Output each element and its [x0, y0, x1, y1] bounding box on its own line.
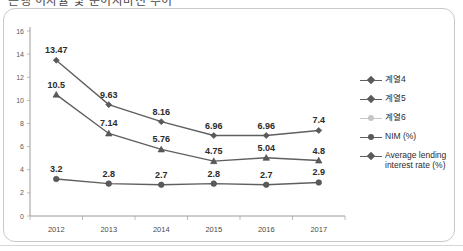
data-point-label: 2.8 [207, 169, 220, 179]
data-point-label: 6.96 [205, 121, 223, 131]
x-tick-label: 2017 [310, 225, 327, 234]
x-tick-label: 2016 [258, 225, 275, 234]
data-point-marker [211, 133, 217, 139]
data-point-marker [53, 176, 59, 182]
legend-diamond-marker-icon [360, 94, 382, 105]
legend-marker [367, 152, 375, 160]
legend-item-label: 계열6 [385, 112, 406, 122]
data-point-label: 5.76 [152, 134, 170, 144]
data-point-label: 6.96 [257, 121, 275, 131]
series-line [56, 179, 319, 185]
x-tick-label: 2012 [48, 225, 65, 234]
x-tick-label: 2013 [100, 225, 117, 234]
legend-diamond-marker-icon [360, 75, 382, 86]
x-axis-ticks: 201220132014201520162017 [30, 216, 345, 234]
y-tick-label: 8 [20, 120, 24, 127]
data-point-label: 3.2 [50, 164, 63, 174]
legend-item[interactable]: 계열4 [360, 74, 460, 86]
data-point-marker [316, 127, 322, 133]
data-point-marker [158, 182, 164, 188]
legend-item-label: 계열4 [385, 74, 406, 84]
legend-marker [367, 95, 375, 103]
y-tick-label: 0 [20, 213, 24, 220]
data-point-label: 2.8 [102, 169, 115, 179]
y-tick-label: 6 [20, 143, 24, 150]
data-point-label: 5.04 [257, 143, 275, 153]
data-point-label: 2.7 [155, 170, 168, 180]
data-point-marker [316, 180, 322, 186]
data-point-marker [53, 91, 59, 97]
legend-item-label: NIM (%) [385, 131, 416, 141]
data-label-layer: 13.479.638.166.966.967.410.57.145.764.75… [45, 45, 325, 180]
legend-item[interactable]: NIM (%) [360, 131, 460, 143]
data-point-marker [263, 182, 269, 188]
legend-item-label: Average lending interest rate (%) [385, 150, 460, 170]
data-point-marker [106, 181, 112, 187]
series-layer [53, 57, 322, 187]
y-tick-label: 4 [20, 166, 24, 173]
data-point-label: 7.4 [312, 115, 325, 125]
legend-marker [368, 134, 374, 140]
data-point-label: 2.9 [312, 167, 325, 177]
legend-marker [368, 115, 374, 121]
y-tick-label: 14 [16, 51, 24, 58]
data-point-label: 4.75 [205, 146, 223, 156]
x-tick-label: 2014 [153, 225, 170, 234]
data-point-label: 2.7 [260, 170, 273, 180]
data-point-label: 7.14 [100, 118, 118, 128]
legend-circle-marker-icon [360, 113, 382, 124]
legend-item[interactable]: Average lending interest rate (%) [360, 150, 460, 170]
legend-diamond-marker-icon [360, 151, 382, 162]
data-point-marker [263, 133, 269, 139]
data-point-label: 9.63 [100, 90, 118, 100]
y-tick-label: 10 [16, 97, 24, 104]
y-axis-ticks: 0246810121416 [16, 28, 30, 220]
y-tick-label: 2 [20, 189, 24, 196]
data-point-label: 10.5 [47, 80, 65, 90]
data-point-marker [158, 119, 164, 125]
legend-marker [367, 76, 375, 84]
legend-item[interactable]: 계열6 [360, 112, 460, 124]
legend-circle-marker-icon [360, 132, 382, 143]
y-tick-label: 12 [16, 74, 24, 81]
series-line [56, 95, 319, 161]
y-tick-label: 16 [16, 28, 24, 35]
data-point-label: 4.8 [312, 146, 325, 156]
data-point-label: 8.16 [152, 107, 170, 117]
legend-item-label: 계열5 [385, 93, 406, 103]
chart-legend: 계열4계열5계열6NIM (%)Average lending interest… [360, 74, 460, 177]
legend-item[interactable]: 계열5 [360, 93, 460, 105]
data-point-marker [211, 181, 217, 187]
data-point-label: 13.47 [45, 45, 68, 55]
x-tick-label: 2015 [205, 225, 222, 234]
